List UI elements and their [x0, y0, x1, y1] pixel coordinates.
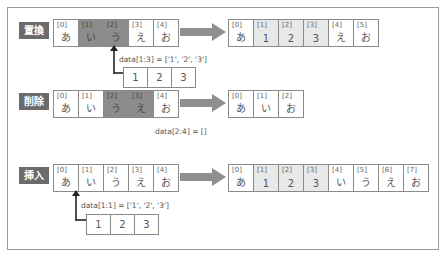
insert-code: data[1:1] = ['1', '2', '3'] [81, 201, 169, 210]
value-cell: 3 [135, 215, 159, 234]
array-cell: [4]い [329, 165, 354, 191]
value-cell: 2 [111, 215, 135, 234]
delete-before-array: [0]あ [1]い [2]う [3]え [4]お [53, 90, 179, 118]
array-cell: [3]え [129, 165, 154, 191]
right-arrow-icon [180, 94, 226, 112]
delete-after-array: [0]あ [1]い [2]お [228, 90, 304, 118]
array-cell: [0]あ [54, 91, 79, 117]
array-cell-new: [2]2 [279, 165, 304, 191]
array-cell: [5]う [354, 165, 379, 191]
insert-inserted-values: 1 2 3 [86, 214, 159, 235]
insert-label: 挿入 [19, 167, 49, 184]
delete-label: 削除 [19, 93, 49, 110]
array-cell: [1]い [79, 165, 104, 191]
array-cell-highlighted: [2]う [104, 20, 129, 46]
insert-before-array: [0]あ [1]い [2]う [3]え [4]お [53, 164, 179, 192]
array-cell: [0]あ [229, 165, 254, 191]
array-cell: [0]あ [229, 20, 254, 46]
right-arrow-icon [180, 23, 226, 41]
right-arrow-icon [180, 168, 226, 186]
array-cell: [2]お [279, 91, 304, 117]
array-cell: [5]お [354, 20, 379, 46]
array-cell: [2]う [104, 165, 129, 191]
value-cell: 2 [148, 68, 172, 87]
value-cell: 3 [172, 68, 196, 87]
array-cell: [4]え [329, 20, 354, 46]
array-cell: [4]お [154, 91, 179, 117]
array-cell: [4]お [154, 20, 179, 46]
array-cell-new: [3]3 [304, 20, 329, 46]
value-cell: 1 [124, 68, 148, 87]
array-cell: [3]え [129, 20, 154, 46]
value-cell: 1 [87, 215, 111, 234]
replace-code: data[1:3] = ['1', '2', '3'] [119, 55, 207, 64]
array-cell: [0]あ [54, 165, 79, 191]
array-cell-new: [2]2 [279, 20, 304, 46]
array-cell: [1]い [79, 91, 104, 117]
replace-label: 置換 [19, 22, 49, 39]
replace-before-array: [0]あ [1]い [2]う [3]え [4]お [53, 19, 179, 47]
array-cell: [1]い [254, 91, 279, 117]
insert-after-array: [0]あ [1]1 [2]2 [3]3 [4]い [5]う [6]え [7]お [228, 164, 429, 192]
array-cell: [7]お [404, 165, 429, 191]
array-cell-new: [3]3 [304, 165, 329, 191]
array-cell: [6]え [379, 165, 404, 191]
replace-after-array: [0]あ [1]1 [2]2 [3]3 [4]え [5]お [228, 19, 379, 47]
array-cell-highlighted: [1]い [79, 20, 104, 46]
array-cell-highlighted: [2]う [104, 91, 129, 117]
replace-inserted-values: 1 2 3 [123, 67, 196, 88]
array-cell: [0]あ [229, 91, 254, 117]
array-cell-new: [1]1 [254, 20, 279, 46]
delete-code: data[2:4] = [] [155, 127, 207, 136]
array-cell: [4]お [154, 165, 179, 191]
array-cell: [0]あ [54, 20, 79, 46]
array-cell-highlighted: [3]え [129, 91, 154, 117]
array-cell-new: [1]1 [254, 165, 279, 191]
